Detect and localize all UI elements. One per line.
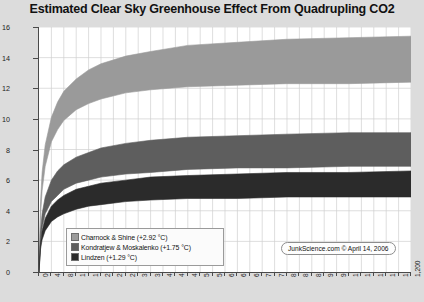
legend: Charnock & Shine (+2.92 °C)Kondratjew & …: [66, 228, 224, 266]
x-tick-label: 1,200: [414, 260, 421, 277]
legend-label: Lindzen (+1.29 °C): [81, 254, 137, 261]
y-tick-label: 6: [0, 176, 10, 185]
y-tick-label: 4: [0, 206, 10, 215]
legend-swatch-icon: [71, 233, 79, 241]
chart-container: Estimated Clear Sky Greenhouse Effect Fr…: [0, 0, 424, 302]
y-tick-label: 0: [0, 268, 10, 277]
legend-item: Charnock & Shine (+2.92 °C): [71, 232, 219, 242]
y-tick-label: 10: [0, 114, 10, 123]
legend-swatch-icon: [71, 253, 79, 261]
legend-item: Kondratjew & Moskalenko (+1.75 °C): [71, 242, 219, 252]
legend-label: Kondratjew & Moskalenko (+1.75 °C): [81, 244, 191, 251]
credit-badge: JunkScience.com © April 14, 2006: [281, 242, 396, 255]
y-tick-label: 14: [0, 53, 10, 62]
legend-item: Lindzen (+1.29 °C): [71, 252, 219, 262]
legend-label: Charnock & Shine (+2.92 °C): [81, 234, 167, 241]
x-tick-label: 0: [42, 273, 49, 277]
y-tick-label: 8: [0, 145, 10, 154]
chart-title: Estimated Clear Sky Greenhouse Effect Fr…: [0, 2, 424, 16]
y-tick-label: 12: [0, 84, 10, 93]
legend-swatch-icon: [71, 243, 79, 251]
y-tick-label: 2: [0, 237, 10, 246]
y-tick-label: 16: [0, 23, 10, 32]
